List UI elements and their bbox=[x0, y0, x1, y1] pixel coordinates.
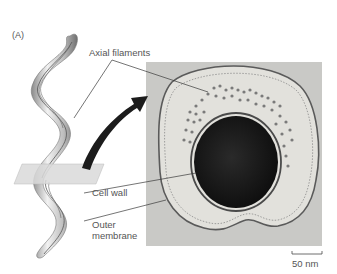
spirochete-illustration bbox=[31, 34, 77, 258]
label-outer-membrane-line2: membrane bbox=[92, 230, 137, 241]
label-outer-membrane-line1: Outer bbox=[92, 219, 116, 230]
scale-bar-label: 50 nm bbox=[292, 258, 318, 269]
label-axial-filaments: Axial filaments bbox=[89, 47, 150, 58]
scale-bar bbox=[292, 251, 322, 254]
micrograph-content bbox=[159, 66, 319, 230]
label-cell-wall: Cell wall bbox=[92, 187, 127, 198]
diagram-graphics bbox=[0, 0, 337, 274]
curved-arrow-icon bbox=[82, 96, 148, 170]
